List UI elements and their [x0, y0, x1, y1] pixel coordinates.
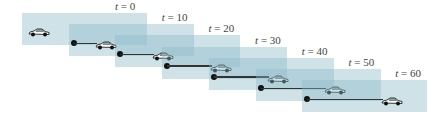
distance-track: [120, 54, 154, 56]
distance-track: [167, 65, 212, 67]
time-label: t = 50: [349, 56, 375, 68]
time-label: t = 30: [255, 34, 281, 46]
car-icon: [95, 36, 117, 46]
car-icon: [381, 92, 403, 102]
car-icon: [28, 23, 50, 33]
time-label: t = 0: [115, 0, 135, 12]
distance-track: [74, 43, 98, 45]
frame-t60: [302, 80, 427, 112]
time-label: t = 10: [162, 11, 188, 23]
time-label: t = 20: [208, 22, 234, 34]
time-label: t = 60: [395, 67, 421, 79]
distance-track: [307, 99, 383, 101]
time-label: t = 40: [302, 45, 328, 57]
